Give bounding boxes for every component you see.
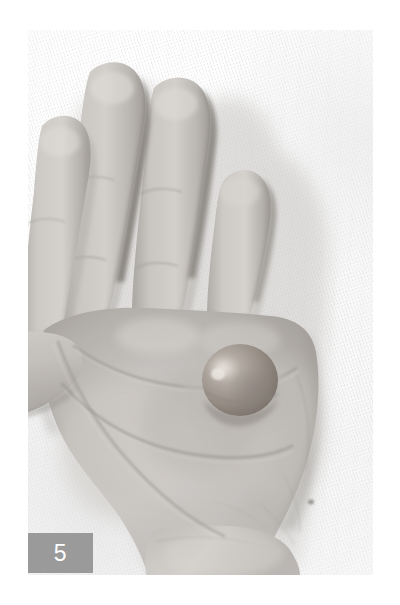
figure-number-label: 5 (54, 542, 67, 565)
clinical-photograph (28, 30, 373, 575)
figure-number-tag: 5 (28, 533, 93, 573)
hand-illustration (28, 30, 373, 575)
photo-grain-overlay (28, 30, 373, 575)
figure-page: 5 (0, 0, 400, 605)
